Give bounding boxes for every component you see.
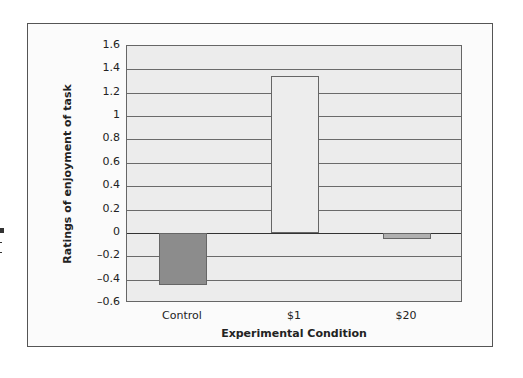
x-tick-label: $20	[366, 309, 446, 322]
x-axis-label: Experimental Condition	[126, 327, 462, 340]
y-tick-label: 0.8	[80, 131, 120, 144]
plot-area	[126, 45, 462, 302]
y-tick-label: 1.6	[80, 38, 120, 51]
bar-20	[383, 233, 431, 239]
x-tick-label: Control	[142, 309, 222, 322]
gridline	[127, 69, 461, 70]
y-tick-label: –0.2	[80, 248, 120, 261]
y-tick-label: 0.4	[80, 178, 120, 191]
y-tick-label: 0	[80, 225, 120, 238]
y-tick-label: 0.6	[80, 155, 120, 168]
bar-1	[271, 76, 319, 233]
y-axis-label: Ratings of enjoyment of task	[61, 84, 74, 264]
y-tick-label: 1.2	[80, 85, 120, 98]
y-tick-label: 1	[80, 108, 120, 121]
y-tick-label: 1.4	[80, 61, 120, 74]
bar-control	[159, 233, 207, 286]
y-tick-label: 0.2	[80, 202, 120, 215]
y-tick-label: –0.4	[80, 272, 120, 285]
y-tick-label: –0.6	[80, 295, 120, 308]
x-tick-label: $1	[254, 309, 334, 322]
